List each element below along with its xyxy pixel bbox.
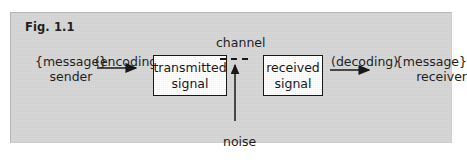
connector-layer [11,13,453,144]
figure-panel: Fig. 1.1 {message} sender (encoding) tra… [10,12,452,143]
